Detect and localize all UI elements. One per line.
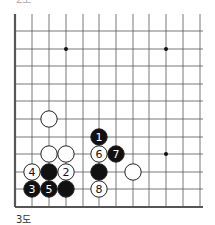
white-stone xyxy=(41,146,57,162)
star-point xyxy=(164,152,168,156)
white-stone xyxy=(41,111,57,127)
move-number: 8 xyxy=(96,183,103,196)
move-number: 4 xyxy=(29,166,36,179)
move-number: 2 xyxy=(63,166,70,179)
black-stone xyxy=(58,181,74,197)
move-number: 6 xyxy=(96,148,103,161)
white-stone xyxy=(58,146,74,162)
star-point xyxy=(64,47,68,51)
diagram-caption: 3도 xyxy=(16,211,31,225)
white-stone xyxy=(125,164,141,180)
move-number: 3 xyxy=(29,183,36,196)
black-stone xyxy=(41,164,57,180)
move-number: 1 xyxy=(96,131,103,144)
black-stone xyxy=(91,164,107,180)
move-number: 7 xyxy=(113,148,120,161)
go-board: 16742358 xyxy=(0,0,215,210)
move-number: 5 xyxy=(46,183,53,196)
star-point xyxy=(164,47,168,51)
